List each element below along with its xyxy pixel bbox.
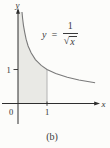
x-tick-label-1: 1 <box>45 107 49 117</box>
figure-area-under-curve: y x 0 1 1 y = 1 √x (b) <box>0 0 110 148</box>
origin-label: 0 <box>9 107 13 117</box>
equation-denominator: √x <box>64 34 77 47</box>
equation-fraction: 1 √x <box>63 21 78 47</box>
y-tick-label-1: 1 <box>6 65 10 75</box>
equation-label: y = 1 √x <box>42 21 78 47</box>
x-axis-label: x <box>101 99 106 109</box>
figure-caption: (b) <box>0 131 104 142</box>
equation-numerator: 1 <box>63 21 78 34</box>
equation-lhs: y = <box>42 29 59 40</box>
equation-radicand: x <box>69 36 76 47</box>
y-axis-label: y <box>15 0 20 10</box>
x-axis-arrowhead-icon <box>94 102 100 106</box>
